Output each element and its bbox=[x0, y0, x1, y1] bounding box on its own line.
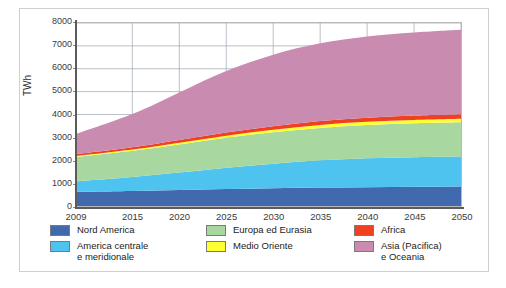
legend-swatch-icon bbox=[206, 225, 226, 236]
legend-item[interactable]: America centrale e meridionale bbox=[50, 240, 148, 262]
legend-item[interactable]: Africa bbox=[354, 224, 442, 236]
x-tick-label-2045: 2045 bbox=[395, 211, 435, 222]
legend-column-0: Nord AmericaAmerica centrale e meridiona… bbox=[50, 224, 148, 266]
x-tick-label-2009: 2009 bbox=[56, 211, 96, 222]
y-tick-7000: 7000 bbox=[30, 40, 72, 49]
x-tick-label-2020: 2020 bbox=[160, 211, 200, 222]
y-axis-line bbox=[75, 20, 77, 209]
legend-swatch-icon bbox=[206, 241, 226, 252]
stacked-area-chart: TWh 010002000300040005000600070008000 20… bbox=[0, 0, 506, 288]
plot-area bbox=[76, 22, 462, 207]
x-tick-label-2040: 2040 bbox=[348, 211, 388, 222]
legend-item[interactable]: Asia (Pacifica) e Oceania bbox=[354, 240, 442, 262]
legend-swatch-icon bbox=[354, 241, 374, 252]
x-tick-label-2030: 2030 bbox=[254, 211, 294, 222]
x-tick-label-2050: 2050 bbox=[442, 211, 482, 222]
y-tick-label: 0 bbox=[36, 202, 72, 211]
x-tick-label-2025: 2025 bbox=[207, 211, 247, 222]
y-tick-6000: 6000 bbox=[30, 63, 72, 72]
y-tick-5000: 5000 bbox=[30, 86, 72, 95]
area-series-svg bbox=[76, 23, 461, 206]
legend-label: Europa ed Eurasia bbox=[233, 224, 312, 235]
chart-legend: Nord AmericaAmerica centrale e meridiona… bbox=[20, 224, 488, 270]
y-tick-1000: 1000 bbox=[30, 179, 72, 188]
y-tick-3000: 3000 bbox=[30, 133, 72, 142]
y-tick-0: 0 bbox=[30, 202, 72, 211]
y-tick-label: 5000 bbox=[36, 86, 72, 95]
legend-swatch-icon bbox=[50, 225, 70, 236]
y-tick-label: 7000 bbox=[36, 40, 72, 49]
legend-column-2: AfricaAsia (Pacifica) e Oceania bbox=[354, 224, 442, 266]
legend-swatch-icon bbox=[354, 225, 374, 236]
caption-strip bbox=[120, 277, 500, 286]
legend-label: Africa bbox=[381, 224, 405, 235]
legend-item[interactable]: Europa ed Eurasia bbox=[206, 224, 312, 236]
legend-label: Nord America bbox=[77, 224, 135, 235]
y-tick-4000: 4000 bbox=[30, 110, 72, 119]
y-tick-label: 6000 bbox=[36, 63, 72, 72]
legend-swatch-icon bbox=[50, 241, 70, 252]
y-tick-label: 4000 bbox=[36, 110, 72, 119]
x-tick-label-2035: 2035 bbox=[301, 211, 341, 222]
y-tick-label: 8000 bbox=[36, 17, 72, 26]
x-tick-label-2015: 2015 bbox=[112, 211, 152, 222]
y-tick-2000: 2000 bbox=[30, 156, 72, 165]
y-tick-label: 1000 bbox=[36, 179, 72, 188]
x-axis-line bbox=[75, 207, 464, 209]
y-tick-label: 3000 bbox=[36, 133, 72, 142]
legend-label: America centrale e meridionale bbox=[77, 240, 148, 262]
legend-item[interactable]: Nord America bbox=[50, 224, 148, 236]
figure-container: TWh 010002000300040005000600070008000 20… bbox=[0, 0, 506, 288]
y-tick-label: 2000 bbox=[36, 156, 72, 165]
legend-item[interactable]: Medio Oriente bbox=[206, 240, 312, 252]
legend-label: Medio Oriente bbox=[233, 240, 293, 251]
y-tick-8000: 8000 bbox=[30, 17, 72, 26]
legend-column-1: Europa ed EurasiaMedio Oriente bbox=[206, 224, 312, 256]
legend-label: Asia (Pacifica) e Oceania bbox=[381, 240, 442, 262]
